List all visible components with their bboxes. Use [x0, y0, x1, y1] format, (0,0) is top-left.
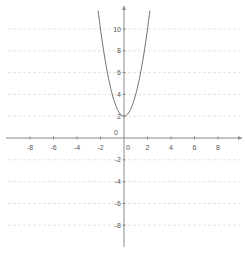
y-tick-label: -2 — [115, 156, 121, 163]
x-tick-label: 8 — [216, 144, 220, 151]
y-tick-label: 10 — [113, 26, 121, 33]
x-tick-label: -8 — [27, 144, 33, 151]
axes — [6, 6, 242, 247]
y-axis-arrow-icon — [122, 6, 126, 10]
y-tick-label: -8 — [115, 222, 121, 229]
tick-labels: -8-6-4-2024681086420-2-4-6-8 — [27, 26, 220, 229]
x-tick-label: -6 — [50, 144, 56, 151]
x-tick-label: 2 — [146, 144, 150, 151]
y-tick-label: -4 — [115, 178, 121, 185]
y-tick-label: 8 — [117, 47, 121, 54]
y-tick-label: -6 — [115, 200, 121, 207]
x-axis-arrow-icon — [238, 136, 242, 140]
x-tick-label: 6 — [193, 144, 197, 151]
y-tick-label: 4 — [117, 91, 121, 98]
y-tick-label: 0 — [114, 129, 118, 136]
x-tick-label: 4 — [169, 144, 173, 151]
function-plot: -8-6-4-2024681086420-2-4-6-8 — [0, 0, 245, 255]
x-tick-label: -4 — [74, 144, 80, 151]
x-tick-label: 0 — [126, 144, 130, 151]
x-tick-label: -2 — [97, 144, 103, 151]
y-tick-label: 6 — [117, 69, 121, 76]
